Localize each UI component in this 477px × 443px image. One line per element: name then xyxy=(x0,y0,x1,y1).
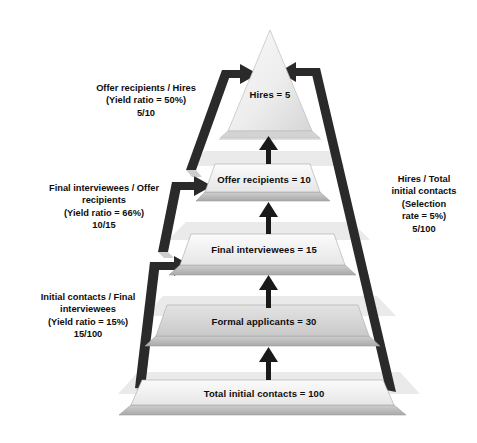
ratio-note-selection-rate: Hires / Total initial contacts (Selectio… xyxy=(372,173,476,235)
ratio-line-5: 5/100 xyxy=(372,223,476,235)
ratio-line-1: Offer recipients / Hires xyxy=(66,82,226,94)
ratio-line-1: Final interviewees / Offer xyxy=(18,182,190,194)
ratio-line-3: (Yield ratio = 66%) xyxy=(18,207,190,219)
ratio-line-2: initial contacts xyxy=(372,185,476,197)
ratio-line-2: interviewees xyxy=(4,304,172,316)
ratio-line-3: (Yield ratio = 15%) xyxy=(4,316,172,328)
ratio-note-final-to-offer: Final interviewees / Offer recipients (Y… xyxy=(18,182,190,232)
ratio-line-4: 10/15 xyxy=(18,219,190,231)
ratio-line-1: Hires / Total xyxy=(372,173,476,185)
ratio-line-3: (Selection xyxy=(372,198,476,210)
ratio-line-4: rate = 5%) xyxy=(372,210,476,222)
ratio-line-3: 5/10 xyxy=(66,107,226,119)
ratio-line-1: Initial contacts / Final xyxy=(4,291,172,303)
tier-formal-applicants xyxy=(145,305,380,346)
ratio-line-2: (Yield ratio = 50%) xyxy=(66,95,226,107)
tier-final-interviewees xyxy=(169,234,356,275)
ratio-note-offer-to-hires: Offer recipients / Hires (Yield ratio = … xyxy=(66,82,226,119)
ratio-line-2: recipients xyxy=(18,195,190,207)
tier-offer-recipients xyxy=(196,164,330,201)
tier-hires xyxy=(218,30,322,140)
pyramid-diagram: Hires = 5 Offer recipients = 10 Final in… xyxy=(0,0,477,443)
ratio-note-initial-to-final: Initial contacts / Final interviewees (Y… xyxy=(4,291,172,341)
tier-total-initial-contacts xyxy=(119,380,406,415)
ratio-line-4: 15/100 xyxy=(4,328,172,340)
